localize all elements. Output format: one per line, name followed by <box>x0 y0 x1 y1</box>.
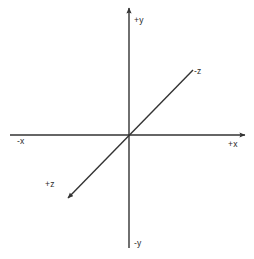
axis-label-minus-x: -x <box>17 137 24 146</box>
z-axis-line <box>68 70 193 198</box>
coordinate-axes-diagram: +y -z +x -x +z -y <box>0 0 254 259</box>
axis-label-minus-y: -y <box>134 239 141 248</box>
axis-label-minus-z: -z <box>194 67 201 76</box>
axis-label-plus-z: +z <box>45 180 55 189</box>
axis-label-plus-y: +y <box>134 16 144 25</box>
axes-drawing <box>0 0 254 259</box>
axis-label-plus-x: +x <box>228 140 238 149</box>
